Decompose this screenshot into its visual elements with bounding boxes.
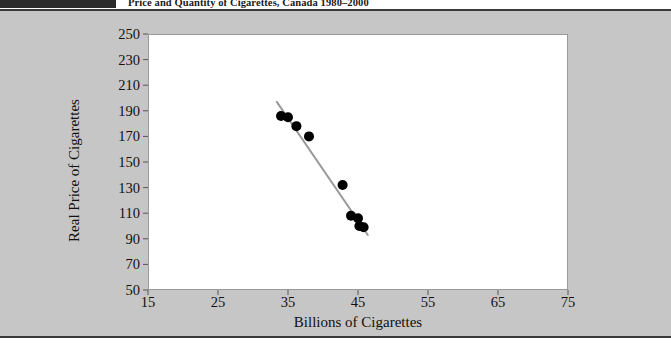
y-tick-label-130: 130 (98, 179, 140, 196)
y-tick-label-190: 190 (98, 102, 140, 119)
y-tick-label-150: 150 (98, 154, 140, 171)
x-tick-label-75: 75 (548, 294, 588, 311)
x-tick-label-55: 55 (408, 294, 448, 311)
x-tick-label-35: 35 (268, 294, 308, 311)
y-tick-label-210: 210 (98, 77, 140, 94)
plot-area (148, 34, 568, 290)
y-tick-label-110: 110 (98, 205, 140, 222)
figure-page: Price and Quantity of Cigarettes, Canada… (0, 0, 671, 348)
x-tick-label-15: 15 (128, 294, 168, 311)
x-tick-label-25: 25 (198, 294, 238, 311)
x-axis-label: Billions of Cigarettes (148, 314, 568, 331)
x-tick-label-65: 65 (478, 294, 518, 311)
y-tick-label-70: 70 (98, 256, 140, 273)
figure-bottom-divider (0, 336, 671, 338)
y-tick-label-170: 170 (98, 128, 140, 145)
y-tick-label-250: 250 (98, 26, 140, 43)
y-tick-label-230: 230 (98, 51, 140, 68)
header-band: Price and Quantity of Cigarettes, Canada… (0, 0, 671, 11)
figure-title: Price and Quantity of Cigarettes, Canada… (128, 0, 648, 9)
x-tick-label-45: 45 (338, 294, 378, 311)
header-dark-block (0, 0, 116, 8)
y-tick-label-90: 90 (98, 230, 140, 247)
y-axis-label: Real Price of Cigarettes (66, 61, 83, 281)
